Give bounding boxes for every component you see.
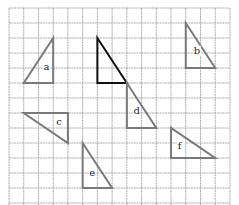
triangle-label-e: e [89, 167, 95, 178]
triangle-label-b: b [194, 45, 200, 56]
triangle-label-a: a [44, 61, 50, 72]
triangles [24, 23, 215, 188]
triangle-label-d: d [133, 105, 140, 116]
grid-lines [9, 8, 230, 205]
triangle-grid-diagram: abcdef [0, 0, 239, 205]
triangle-label-c: c [56, 116, 62, 127]
